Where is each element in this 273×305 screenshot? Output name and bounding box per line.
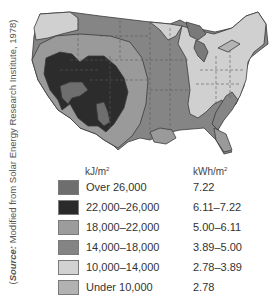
legend-swatch: [58, 280, 79, 295]
legend-row: Over 26,000 7.22: [58, 180, 258, 196]
legend-swatch: [58, 200, 79, 215]
legend-kj-label: Over 26,000: [86, 181, 147, 193]
legend-swatch: [58, 240, 79, 255]
legend-kj-label: 18,000–22,000: [86, 221, 159, 233]
legend-kwh-label: 2.78–3.89: [193, 261, 242, 273]
legend-header-kj: kJ/m2: [85, 166, 109, 177]
legend-kwh-label: 6.11–7.22: [193, 201, 241, 213]
legend-kwh-label: 5.00–6.11: [193, 221, 241, 233]
legend-kwh-label: 2.78: [193, 281, 214, 293]
legend-row: Under 10,000 2.78: [58, 280, 258, 296]
legend-swatch: [58, 220, 79, 235]
region-gulf-florida: [214, 128, 232, 152]
legend-kj-label: 22,000–26,000: [86, 201, 159, 213]
legend-row: 14,000–18,000 3.89–5.00: [58, 240, 258, 256]
legend-swatch: [58, 260, 79, 275]
source-label: Source:: [7, 246, 18, 281]
legend-swatch: [58, 180, 79, 195]
region-gulf-texas: [150, 128, 176, 144]
legend-kwh-label: 7.22: [193, 181, 214, 193]
legend-row: 10,000–14,000 2.78–3.89: [58, 260, 258, 276]
legend-kj-label: Under 10,000: [86, 281, 153, 293]
us-solar-map: [0, 0, 273, 160]
legend: kJ/m2 kWh/m2 Over 26,000 7.22 22,000–26,…: [55, 166, 265, 305]
legend-kj-label: 10,000–14,000: [86, 261, 159, 273]
legend-kwh-label: 3.89–5.00: [193, 241, 242, 253]
legend-kj-label: 14,000–18,000: [86, 241, 159, 253]
legend-row: 18,000–22,000 5.00–6.11: [58, 220, 258, 236]
legend-header-kwh: kWh/m2: [193, 166, 227, 177]
legend-row: 22,000–26,000 6.11–7.22: [58, 200, 258, 216]
